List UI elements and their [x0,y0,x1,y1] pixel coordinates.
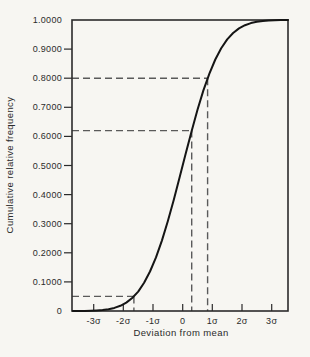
y-tick-label: 0.2000 [33,248,62,258]
x-tick-label: 3σ [266,316,277,326]
cdf-chart: 00.10000.20000.30000.40000.50000.60000.7… [0,0,310,357]
y-tick-label: 0.9000 [33,44,62,54]
normal-cdf-figure: 00.10000.20000.30000.40000.50000.60000.7… [0,0,310,357]
y-tick-label: 0.4000 [33,190,62,200]
y-tick-label: 0 [57,306,62,316]
y-tick-label: 0.1000 [33,277,62,287]
x-tick-label: 2σ [236,316,247,326]
x-axis-title: Deviation from mean [133,327,228,338]
normal-cdf-curve [73,20,288,311]
y-axis-title: Cumulative relative frequency [4,97,15,234]
x-tick-label: -3σ [86,316,101,326]
y-tick-label: 1.0000 [33,15,62,25]
y-tick-label: 0.3000 [33,219,62,229]
x-tick-label: 0 [180,316,185,326]
y-tick-label: 0.6000 [33,131,62,141]
y-tick-label: 0.5000 [33,161,62,171]
x-tick-label: -2σ [116,316,131,326]
y-tick-label: 0.7000 [33,102,62,112]
x-tick-label: 1σ [207,316,218,326]
y-tick-label: 0.8000 [33,73,62,83]
x-tick-label: -1σ [146,316,161,326]
plot-frame [72,20,288,311]
